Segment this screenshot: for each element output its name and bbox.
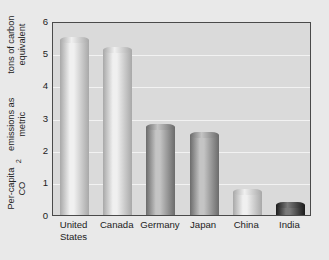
bar-body [60, 40, 89, 215]
y-axis-tick-label: 0 [33, 211, 48, 221]
y-axis-tick-label: 4 [33, 81, 48, 91]
x-axis-tick-label: Canada [95, 219, 138, 231]
y-axis-title-text-line2: tons of carbon equivalent [6, 0, 29, 89]
bar-slot [269, 202, 311, 214]
bar-slot [53, 37, 96, 215]
bar-slot [183, 132, 226, 214]
y-axis-tick-label: 5 [33, 49, 48, 59]
bar[interactable] [190, 132, 219, 214]
bar-cap [233, 189, 262, 195]
bar-cap [103, 47, 132, 53]
bars-container [53, 23, 310, 215]
bar[interactable] [103, 47, 132, 215]
bar-body [103, 50, 132, 215]
plot-area [52, 22, 311, 216]
y-axis-tick-label: 6 [33, 17, 48, 27]
y-axis-tick-labels: 0123456 [33, 15, 48, 215]
bar-cap [190, 132, 219, 138]
x-axis-tick-label: Japan [182, 219, 225, 231]
bar-cap [276, 202, 305, 208]
bar[interactable] [276, 202, 305, 214]
bar-body [233, 192, 262, 215]
bar-body [190, 135, 219, 214]
x-axis-tick-label: China [225, 219, 268, 231]
y-axis-title-text-part1: Per-capita CO [6, 163, 29, 214]
x-axis-tick-labels: United StatesCanadaGermanyJapanChinaIndi… [52, 219, 311, 259]
bar-cap [60, 37, 89, 43]
y-axis-title-subscript: 2 [13, 159, 24, 163]
x-axis-tick-label: United States [52, 219, 95, 242]
x-axis-tick-label: India [268, 219, 311, 231]
bar[interactable] [146, 124, 175, 214]
y-axis-tick-label: 2 [33, 146, 48, 156]
bar-cap [146, 124, 175, 130]
x-axis-tick-label: Germany [138, 219, 181, 231]
y-axis-tick-label: 1 [33, 178, 48, 188]
y-axis-title: Per-capita CO2 emissions as metrictons o… [0, 0, 34, 214]
y-axis-title-text-part2: emissions as metric [6, 89, 29, 159]
bar-slot [96, 47, 139, 215]
bar-body [146, 127, 175, 214]
bar-slot [139, 124, 182, 214]
y-axis-tick-label: 3 [33, 114, 48, 124]
bar-slot [226, 189, 269, 215]
bar[interactable] [60, 37, 89, 215]
bar[interactable] [233, 189, 262, 215]
bar-chart-figure: Per-capita CO2 emissions as metrictons o… [0, 0, 329, 260]
